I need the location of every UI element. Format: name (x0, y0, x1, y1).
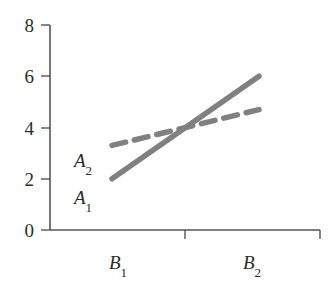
x-axis-label-b2: B2 (222, 253, 282, 276)
series-label-a2-base: A (74, 150, 86, 171)
series-label-a1-subscript: 1 (86, 200, 93, 215)
y-axis-label-2: 2 (8, 170, 34, 189)
y-axis-label-6: 6 (8, 67, 34, 86)
y-axis-label-4: 4 (8, 119, 34, 138)
series-line-a2 (112, 110, 259, 146)
series-label-a1: A1 (74, 188, 92, 211)
series-label-a1-base: A (74, 187, 86, 208)
x-axis-label-b1: B1 (88, 253, 148, 276)
x-axis-label-b2-subscript: 2 (255, 265, 262, 280)
series-label-a2-subscript: 2 (86, 163, 93, 178)
x-axis-label-b1-base: B (109, 252, 121, 273)
y-axis-label-0: 0 (8, 221, 34, 240)
x-axis-label-b1-subscript: 1 (121, 265, 128, 280)
plot-canvas (0, 0, 330, 293)
series-label-a2: A2 (74, 151, 92, 174)
x-axis-label-b2-base: B (243, 252, 255, 273)
y-axis-label-8: 8 (8, 16, 34, 35)
interaction-plot-figure: 8 6 4 2 0 B1 B2 A2 A1 (0, 0, 330, 293)
